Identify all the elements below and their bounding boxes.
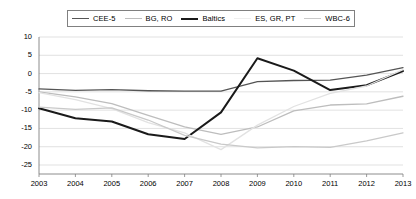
legend-item-es-gr-pt[interactable]: ES, GR, PT [234,14,295,23]
legend-label-baltics: Baltics [202,14,225,23]
y-tick-label: -20 [6,143,32,151]
legend-item-baltics[interactable]: Baltics [181,14,225,23]
x-tick-label: 2007 [167,180,203,188]
y-tick-label: -5 [6,88,32,96]
x-tick-label: 2009 [239,180,275,188]
chart-canvas [0,30,408,199]
legend-label-wbc-6: WBC-6 [325,14,350,23]
x-tick-label: 2005 [94,180,130,188]
y-tick-label: -25 [6,161,32,169]
x-tick-label: 2006 [130,180,166,188]
series-lines [39,58,403,149]
chart-legend: CEE-5 BG, RO Baltics ES, GR, PT WBC-6 [67,10,355,27]
plot-area: 1050-5-10-15-20-25 200320042005200620072… [0,30,408,199]
legend-swatch-bg-ro [125,18,142,19]
series-line-baltics [39,58,403,139]
legend-item-wbc-6[interactable]: WBC-6 [304,14,350,23]
x-tick-label: 2003 [21,180,57,188]
x-tick-label: 2010 [276,180,312,188]
y-tick-label: 5 [6,51,32,59]
legend-label-bg-ro: BG, RO [146,14,173,23]
series-line-es-gr-pt [39,70,403,150]
legend-swatch-es-gr-pt [234,18,251,19]
y-tick-label: 0 [6,70,32,78]
x-tick-label: 2013 [385,180,416,188]
legend-swatch-baltics [181,18,198,20]
x-tick-label: 2004 [57,180,93,188]
axis-lines [39,37,403,177]
legend-item-bg-ro[interactable]: BG, RO [125,14,173,23]
gridlines [39,37,403,165]
x-tick-label: 2012 [349,180,385,188]
y-tick-label: -10 [6,106,32,114]
x-tick-label: 2011 [312,180,348,188]
y-tick-label: -15 [6,124,32,132]
legend-swatch-cee-5 [72,18,89,19]
legend-item-cee-5[interactable]: CEE-5 [72,14,116,23]
legend-swatch-wbc-6 [304,18,321,19]
x-tick-label: 2008 [203,180,239,188]
legend-label-es-gr-pt: ES, GR, PT [255,14,295,23]
y-tick-label: 10 [6,33,32,41]
legend-label-cee-5: CEE-5 [93,14,116,23]
